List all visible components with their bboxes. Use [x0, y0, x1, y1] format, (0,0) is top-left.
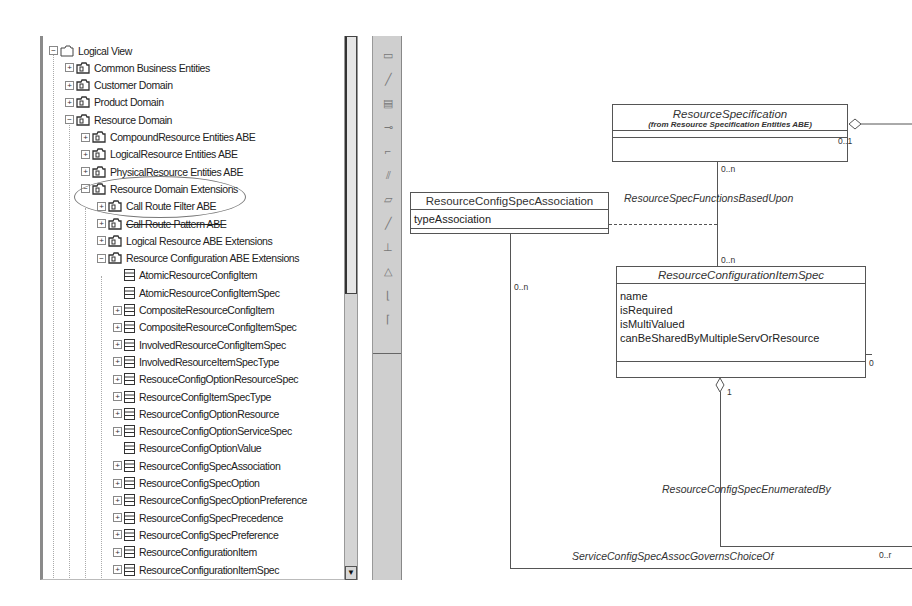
class-diagram-canvas[interactable]: ResourceSpecification (from Resource Spe… — [402, 36, 912, 606]
tree-item[interactable]: +ResourceConfigurationItem — [113, 544, 257, 561]
expand-icon[interactable]: + — [65, 81, 74, 90]
tree-item[interactable]: +ResourceConfigOptionResource — [113, 405, 279, 422]
tree-item[interactable]: −Resource Configuration ABE Extensions — [97, 250, 299, 267]
class-icon — [124, 494, 135, 506]
package-folder-icon — [108, 218, 122, 230]
scrollbar-thumb[interactable] — [345, 36, 357, 294]
collapse-icon[interactable]: − — [49, 46, 58, 55]
tree-item[interactable]: +ResouceConfigOptionResourceSpec — [113, 371, 298, 388]
tree-item[interactable]: +ResourceConfigSpecOptionPreference — [113, 492, 307, 509]
expand-icon[interactable]: + — [81, 133, 90, 142]
scroll-down-arrow[interactable]: ▼ — [345, 566, 357, 580]
interface-tool-button[interactable]: ⊸ — [379, 118, 397, 136]
expand-icon[interactable]: + — [113, 323, 122, 332]
tree-vertical-scrollbar[interactable]: ▼ — [344, 36, 358, 580]
attribute: typeAssociation — [414, 212, 605, 226]
expand-icon[interactable]: + — [113, 392, 122, 401]
tree-item[interactable]: +ResourceConfigSpecAssociation — [113, 457, 280, 474]
generalization-tool-icon: △ — [384, 265, 392, 278]
tree-item-label: CompoundResource Entities ABE — [110, 131, 255, 143]
association-line — [720, 546, 912, 547]
association-stub — [866, 354, 872, 355]
tree-item[interactable]: ResourceConfigOptionValue — [113, 440, 261, 457]
collapse-icon[interactable]: − — [65, 115, 74, 124]
expand-icon[interactable]: + — [113, 306, 122, 315]
tree-item[interactable]: +ResourceConfigurationItemSpec — [113, 561, 279, 578]
class-resource-config-spec-association[interactable]: ResourceConfigSpecAssociation typeAssoci… — [410, 192, 609, 234]
expand-icon[interactable]: + — [113, 513, 122, 522]
expand-icon[interactable]: + — [113, 496, 122, 505]
aggregation-tool-button[interactable]: ⌊ — [379, 286, 397, 304]
class-icon — [124, 373, 135, 385]
realize-tool-button[interactable]: ⊥ — [379, 238, 397, 256]
class-tool-button[interactable]: ▤ — [379, 94, 397, 112]
tree-item[interactable]: +ResourceConfigSpecOption — [113, 475, 260, 492]
tree-item-label: Resource Domain — [94, 114, 172, 126]
expand-icon[interactable]: + — [81, 167, 90, 176]
package-folder-icon — [108, 252, 122, 264]
attribute: isMultiValued — [620, 317, 862, 331]
composition-tool-button[interactable]: ⌈ — [379, 310, 397, 328]
tree-item[interactable]: +LogicalResource Entities ABE — [81, 146, 238, 163]
package-folder-icon — [76, 114, 90, 126]
tree-item[interactable]: −Logical View — [49, 42, 132, 59]
tree-item[interactable]: +Common Business Entities — [65, 59, 210, 76]
association-label: ResourceSpecFunctionsBasedUpon — [624, 192, 793, 204]
association-label: ServiceConfigSpecAssocGovernsChoiceOf — [572, 550, 773, 562]
expand-icon[interactable]: + — [113, 375, 122, 384]
tree-item[interactable]: +CompoundResource Entities ABE — [81, 129, 255, 146]
tree-item[interactable]: +CompositeResourceConfigItemSpec — [113, 319, 296, 336]
tree-item[interactable]: +Logical Resource ABE Extensions — [97, 232, 272, 249]
tree-item[interactable]: +InvolvedResourceConfigItemSpec — [113, 336, 286, 353]
tree-item[interactable]: +InvolvedResourceItemSpecType — [113, 353, 279, 370]
expand-icon[interactable]: + — [113, 461, 122, 470]
aggregation-tool-icon: ⌊ — [386, 289, 390, 302]
note-anchor-tool-button[interactable]: ╱ — [379, 70, 397, 88]
expand-icon[interactable]: + — [97, 219, 106, 228]
expand-icon[interactable]: + — [113, 340, 122, 349]
expand-icon[interactable]: + — [113, 530, 122, 539]
expand-icon[interactable]: + — [113, 479, 122, 488]
expand-icon[interactable]: + — [97, 236, 106, 245]
tree-item[interactable]: +Customer Domain — [65, 77, 173, 94]
unidirectional-association-tool-button[interactable]: ⌐ — [379, 142, 397, 160]
package-tool-button[interactable]: ▱ — [379, 190, 397, 208]
tree-item[interactable]: +ResourceConfigSpecPrecedence — [113, 509, 283, 526]
model-browser-tree[interactable]: −Logical View+Common Business Entities+C… — [40, 36, 345, 580]
attribute: canBeSharedByMultipleServOrResource — [620, 331, 862, 345]
class-icon — [124, 304, 135, 316]
package-folder-icon — [76, 79, 90, 91]
class-icon — [124, 442, 135, 454]
expand-icon[interactable]: + — [113, 548, 122, 557]
tree-item[interactable]: AtomicResourceConfigItem — [113, 267, 257, 284]
tree-item-label: InvolvedResourceItemSpecType — [139, 356, 279, 368]
tree-item-label: InvolvedResourceConfigItemSpec — [139, 339, 286, 351]
tree-item[interactable]: +ResourceConfigOptionServiceSpec — [113, 423, 292, 440]
tree-item-label: Resource Configuration ABE Extensions — [126, 252, 299, 264]
expand-icon[interactable]: + — [113, 409, 122, 418]
tree-item[interactable]: +ResourceConfigItemSpecType — [113, 388, 271, 405]
text-box-tool-button[interactable]: ▭ — [379, 46, 397, 64]
class-icon — [124, 546, 135, 558]
expand-icon[interactable]: + — [81, 150, 90, 159]
expand-icon[interactable]: + — [113, 565, 122, 574]
class-resource-configuration-item-spec[interactable]: ResourceConfigurationItemSpec name isReq… — [616, 266, 866, 378]
tree-item[interactable]: −Resource Domain — [65, 111, 172, 128]
collapse-icon[interactable]: − — [97, 254, 106, 263]
tree-item[interactable]: +CompositeResourceConfigItem — [113, 302, 274, 319]
expand-icon[interactable]: + — [113, 427, 122, 436]
tree-item[interactable]: AtomicResourceConfigItemSpec — [113, 284, 280, 301]
expand-icon[interactable]: + — [65, 63, 74, 72]
expand-icon[interactable]: + — [113, 357, 122, 366]
class-resource-specification[interactable]: ResourceSpecification (from Resource Spe… — [612, 104, 848, 162]
tree-item-label: Logical Resource ABE Extensions — [126, 235, 272, 247]
operations-compartment — [617, 362, 865, 369]
dependency-tool-button[interactable]: ⫽ — [379, 166, 397, 184]
association-tool-button[interactable]: ╱ — [379, 214, 397, 232]
tree-item-label: Common Business Entities — [94, 62, 210, 74]
generalization-tool-button[interactable]: △ — [379, 262, 397, 280]
tree-connector — [113, 444, 122, 453]
expand-icon[interactable]: + — [65, 98, 74, 107]
tree-item[interactable]: +Product Domain — [65, 94, 164, 111]
tree-item[interactable]: +ResourceConfigSpecPreference — [113, 526, 278, 543]
